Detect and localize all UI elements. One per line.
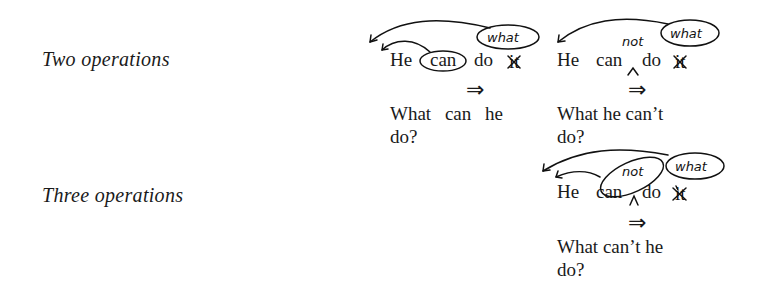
move-arrow-can-icon	[382, 41, 430, 52]
annotation-group-c: what not it	[543, 149, 724, 205]
handwritten-what: what	[487, 30, 520, 45]
handwritten-not: not	[622, 34, 644, 49]
move-arrow-can-icon	[556, 172, 600, 177]
handwritten-annotations: what it what not it what not	[0, 0, 766, 296]
handwritten-what: what	[675, 159, 708, 174]
circle-can-icon	[420, 51, 466, 71]
move-arrow-what-icon	[370, 21, 490, 42]
handwritten-not: not	[622, 164, 644, 179]
annotation-group-a: what it	[370, 21, 539, 72]
handwritten-what: what	[670, 26, 703, 41]
annotation-group-b: what not it	[558, 19, 719, 75]
move-arrow-what-icon	[558, 19, 668, 42]
insertion-caret-icon	[630, 196, 638, 205]
insertion-caret-icon	[628, 68, 638, 75]
move-arrow-what-icon	[543, 150, 668, 171]
